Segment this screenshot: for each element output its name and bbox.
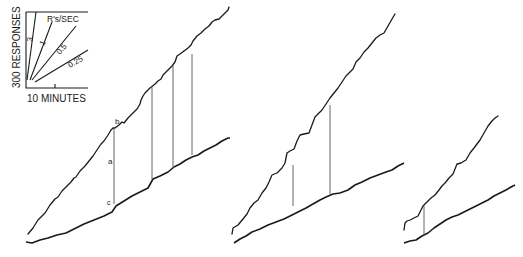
y-axis-label: 300 RESPONSES (11, 6, 22, 88)
units-label: R's/SEC (47, 14, 79, 24)
left-record: b a c (26, 7, 230, 243)
cumulative-record-figure: 300 RESPONSES 10 MINUTES R's/SEC 3 1 0.5… (0, 0, 523, 257)
rate-label-0.25: 0.25 (67, 54, 85, 70)
rate-label-0.5: 0.5 (55, 42, 69, 57)
rate-line-3 (27, 12, 36, 80)
annotation-b: b (115, 117, 120, 126)
middle-baseline-curve (234, 163, 404, 243)
annotation-c: c (107, 199, 111, 206)
annotation-a: a (108, 157, 113, 166)
right-response-curve (404, 116, 498, 230)
x-axis-label: 10 MINUTES (27, 93, 86, 104)
right-baseline-curve (404, 185, 515, 243)
left-response-curve (28, 7, 229, 234)
rate-label-3: 3 (25, 36, 35, 42)
rate-line-0.5 (32, 26, 76, 80)
middle-response-curve (232, 14, 395, 234)
left-baseline-curve (26, 138, 230, 243)
middle-record (232, 14, 404, 243)
right-record (404, 116, 515, 243)
rate-key: 300 RESPONSES 10 MINUTES R's/SEC 3 1 0.5… (11, 6, 88, 104)
rate-label-1: 1 (38, 39, 48, 47)
